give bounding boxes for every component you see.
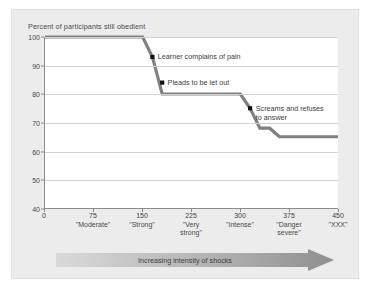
x-tick-value: 300 <box>212 212 268 221</box>
gridline-y-60 <box>45 152 338 153</box>
chart-figure: Percent of participants still obedient 0… <box>0 0 373 291</box>
x-tick-name: "Strong" <box>114 221 170 230</box>
marker-dot-1 <box>160 81 164 85</box>
plot-area <box>44 37 338 209</box>
x-tick-value: 375 <box>261 212 317 221</box>
annotation-1: Pleads to be let out <box>168 78 230 87</box>
x-tick-name: "Moderate" <box>65 221 121 230</box>
x-tick-value: 450 <box>310 212 366 221</box>
x-tick-name: "XXX" <box>310 221 366 230</box>
x-tick-label-150: 150"Strong" <box>114 212 170 229</box>
intensity-arrow-banner: Increasing intensity of shocks <box>56 249 334 271</box>
x-tick-value: 225 <box>163 212 219 221</box>
x-tick-value: 0 <box>16 212 72 221</box>
y-tick-mark-70 <box>41 123 44 124</box>
arrow-banner-label: Increasing intensity of shocks <box>56 249 314 271</box>
y-tick-label-50: 50 <box>0 177 40 184</box>
x-tick-label-0: 0 <box>16 212 72 221</box>
annotation-0: Learner complains of pain <box>158 52 241 61</box>
x-tick-value: 75 <box>65 212 121 221</box>
y-tick-mark-60 <box>41 151 44 152</box>
annotation-2: Screams and refuses to answer <box>256 104 324 123</box>
x-tick-name: "Very strong" <box>163 221 219 238</box>
x-tick-name: "Danger severe" <box>261 221 317 238</box>
x-tick-value: 150 <box>114 212 170 221</box>
x-tick-label-300: 300"Intense" <box>212 212 268 229</box>
y-tick-mark-50 <box>41 180 44 181</box>
y-tick-label-90: 90 <box>0 62 40 69</box>
gridline-y-70 <box>45 123 338 124</box>
gridline-y-100 <box>45 37 338 38</box>
y-tick-mark-100 <box>41 37 44 38</box>
x-tick-name: "Intense" <box>212 221 268 230</box>
marker-dot-0 <box>150 55 154 59</box>
x-tick-label-225: 225"Very strong" <box>163 212 219 238</box>
y-tick-label-60: 60 <box>0 148 40 155</box>
marker-dot-2 <box>248 106 252 110</box>
x-tick-label-75: 75"Moderate" <box>65 212 121 229</box>
gridline-y-80 <box>45 94 338 95</box>
y-tick-mark-40 <box>41 209 44 210</box>
gridline-y-90 <box>45 66 338 67</box>
y-tick-mark-80 <box>41 94 44 95</box>
x-tick-label-450: 450"XXX" <box>310 212 366 229</box>
y-tick-mark-90 <box>41 65 44 66</box>
y-tick-label-100: 100 <box>0 34 40 41</box>
gridline-y-50 <box>45 180 338 181</box>
y-tick-label-80: 80 <box>0 91 40 98</box>
y-tick-label-40: 40 <box>0 206 40 213</box>
x-tick-label-375: 375"Danger severe" <box>261 212 317 238</box>
chart-title: Percent of participants still obedient <box>28 22 145 31</box>
y-tick-label-70: 70 <box>0 120 40 127</box>
